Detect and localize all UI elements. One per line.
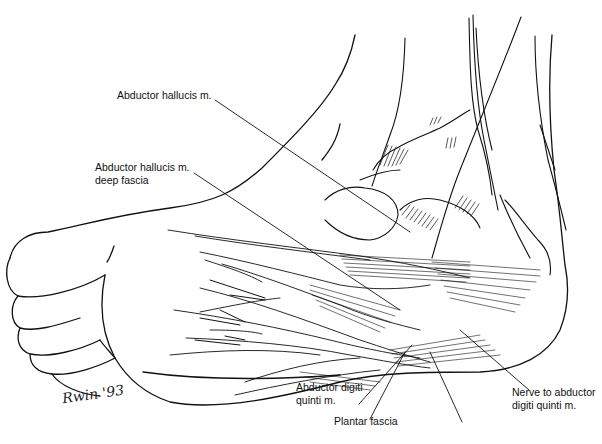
label-abductor-hallucis: Abductor hallucis m. xyxy=(117,89,212,102)
label-deep-fascia-line2: deep fascia xyxy=(95,174,149,187)
leader-abductor-hallucis xyxy=(215,100,410,232)
anatomy-figure: Abductor hallucis m. Abductor hallucis m… xyxy=(0,0,602,444)
ankle-lines xyxy=(325,15,566,275)
label-abductor-digiti-quinti-line1: Abductor digiti xyxy=(296,381,363,394)
muscle-hatching xyxy=(300,255,540,390)
leader-lines xyxy=(194,100,529,422)
label-plantar-fascia: Plantar fascia xyxy=(334,415,398,428)
leader-unlabeled xyxy=(430,352,462,422)
plantar-fascia-strands xyxy=(168,230,470,395)
bone-hatching xyxy=(380,117,479,230)
leader-nerve xyxy=(460,330,529,390)
label-nerve-line2: digiti quinti m. xyxy=(512,399,576,412)
foot-outline xyxy=(7,35,568,405)
label-abductor-digiti-quinti-line2: quinti m. xyxy=(296,394,336,407)
foot-illustration xyxy=(0,0,602,444)
label-deep-fascia-line1: Abductor hallucis m. xyxy=(95,161,190,174)
label-nerve-line1: Nerve to abductor xyxy=(512,386,595,399)
